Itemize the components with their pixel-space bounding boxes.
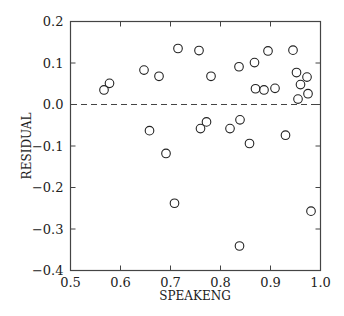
y-tick-labels: 0.20.10.0−0.1−0.2−0.3−0.4 bbox=[32, 14, 64, 278]
data-point bbox=[264, 47, 273, 56]
data-point bbox=[292, 68, 301, 77]
x-axis-label: SPEAKENG bbox=[159, 289, 231, 303]
x-tick-label: 0.6 bbox=[110, 275, 131, 290]
data-point bbox=[281, 131, 290, 140]
plot-frame bbox=[71, 22, 321, 271]
data-point bbox=[304, 89, 313, 98]
data-point bbox=[145, 126, 154, 135]
data-point bbox=[174, 44, 183, 53]
data-points bbox=[100, 44, 316, 250]
data-point bbox=[236, 116, 245, 125]
data-point bbox=[294, 95, 303, 104]
y-tick-label: 0.2 bbox=[43, 14, 64, 29]
y-tick-label: −0.1 bbox=[32, 139, 64, 154]
data-point bbox=[105, 79, 114, 88]
data-point bbox=[195, 46, 204, 55]
x-tick-label: 1.0 bbox=[310, 275, 331, 290]
x-tick-label: 0.8 bbox=[210, 275, 231, 290]
data-point bbox=[245, 139, 254, 148]
data-point bbox=[271, 84, 280, 93]
data-point bbox=[207, 72, 216, 81]
data-point bbox=[235, 242, 244, 251]
y-tick-label: 0.0 bbox=[43, 97, 64, 112]
x-tick-label: 0.7 bbox=[160, 275, 181, 290]
data-point bbox=[226, 124, 235, 133]
data-point bbox=[202, 118, 211, 127]
data-point bbox=[250, 58, 259, 67]
data-point bbox=[235, 62, 244, 71]
data-point bbox=[140, 66, 149, 75]
scatter-plot: 0.50.60.70.80.91.0 0.20.10.0−0.1−0.2−0.3… bbox=[0, 0, 344, 316]
data-point bbox=[260, 86, 269, 95]
y-tick-label: −0.4 bbox=[32, 263, 64, 278]
y-axis-label: RESIDUAL bbox=[20, 113, 34, 180]
data-point bbox=[155, 72, 164, 81]
data-point bbox=[170, 199, 179, 208]
x-tick-labels: 0.50.60.70.80.91.0 bbox=[60, 275, 331, 290]
data-point bbox=[303, 73, 312, 82]
axis-ticks bbox=[71, 22, 321, 271]
data-point bbox=[162, 149, 171, 158]
x-tick-label: 0.9 bbox=[260, 275, 281, 290]
y-tick-label: −0.2 bbox=[32, 180, 64, 195]
data-point bbox=[289, 46, 298, 55]
y-tick-label: 0.1 bbox=[43, 56, 64, 71]
y-tick-label: −0.3 bbox=[32, 222, 64, 237]
data-point bbox=[296, 80, 305, 89]
data-point bbox=[307, 207, 316, 216]
data-point bbox=[251, 84, 260, 93]
